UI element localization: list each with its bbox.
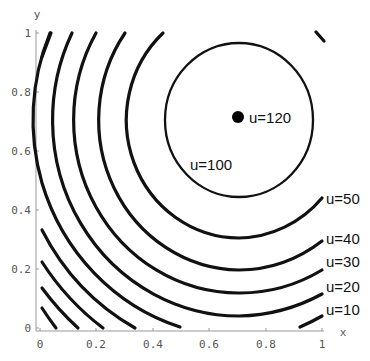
- label-u20: u=20: [326, 278, 360, 295]
- y-tick-labels: 1 0.8 0.6 0.4 0.2 0: [11, 27, 31, 335]
- label-u40: u=40: [326, 230, 360, 247]
- x-tick-label: 0.4: [143, 338, 163, 351]
- y-tick-label: 0.6: [11, 145, 31, 158]
- contour-labels: u=120 u=100 u=50 u=40 u=30 u=20 u=10: [190, 109, 360, 318]
- x-tick-label: 0.6: [199, 338, 219, 351]
- x-tick-label: 0.2: [86, 338, 106, 351]
- x-tick-labels: 0 0.2 0.4 0.6 0.8 1: [37, 338, 326, 351]
- label-u100: u=100: [190, 156, 232, 173]
- contour-u0-d: [42, 308, 56, 328]
- y-tick-label: 1: [24, 27, 31, 40]
- label-u50: u=50: [326, 190, 360, 207]
- contour-u0-c: [42, 288, 78, 328]
- contour-fragment-top-left: [42, 33, 51, 57]
- label-u120: u=120: [249, 109, 291, 126]
- y-tick-label: 0.4: [11, 204, 31, 217]
- label-u10: u=10: [326, 301, 360, 318]
- x-tick-label: 0.8: [256, 338, 276, 351]
- contour-u50: [126, 33, 322, 238]
- y-tick-label: 0: [24, 322, 31, 335]
- y-tick-label: 0.2: [11, 263, 31, 276]
- contour-u0-a: [42, 230, 135, 328]
- x-tick-label: 0: [37, 338, 44, 351]
- maximum-point-marker: [232, 111, 244, 123]
- x-axis-label: x: [340, 326, 347, 339]
- contour-u10-right: [300, 316, 322, 327]
- y-tick-label: 0.8: [11, 86, 31, 99]
- label-u30: u=30: [326, 253, 360, 270]
- contour-plot: 1 0.8 0.6 0.4 0.2 0 0 0.2 0.4 0.6 0.8 1 …: [0, 0, 370, 361]
- y-axis-label: y: [34, 8, 41, 21]
- x-tick-label: 1: [319, 338, 326, 351]
- contour-fragment-top-right: [316, 32, 324, 41]
